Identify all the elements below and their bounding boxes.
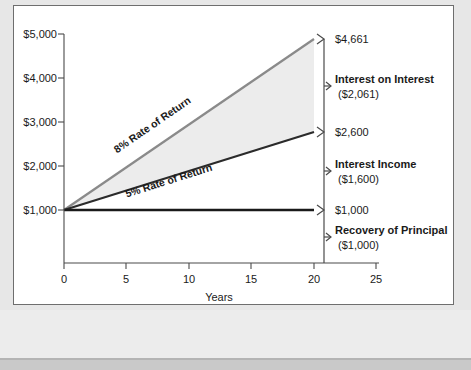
page-background-middle: [0, 310, 471, 360]
x-tick-label-25: 25: [361, 274, 391, 285]
chart-plot-area: [14, 6, 455, 306]
y-tick-label-5000: $5,000: [9, 29, 57, 40]
callout-value-2600: $2,600: [335, 127, 369, 138]
x-axis-title: Years: [189, 292, 249, 303]
x-tick-label-20: 20: [299, 274, 329, 285]
page-background-bottom-band: [0, 360, 471, 370]
callout-value-4661: $4,661: [335, 34, 369, 45]
callout-amount-interest-income: ($1,600): [338, 174, 379, 185]
y-tick-label-3000: $3,000: [9, 117, 57, 128]
callout-brace-group-ticks: [324, 86, 331, 237]
y-tick-label-4000: $4,000: [9, 73, 57, 84]
callout-title-interest-on-interest: Interest on Interest: [335, 74, 434, 85]
callout-amount-interest-on-interest: ($2,061): [338, 89, 379, 100]
callout-brace-group-arrowheads: [326, 82, 331, 241]
y-axis-ticks: [58, 34, 64, 210]
x-tick-label-0: 0: [49, 274, 79, 285]
callout-value-1000: $1,000: [335, 205, 369, 216]
figure-panel: $5,000 $4,000 $3,000 $2,000 $1,000 0 5 1…: [13, 5, 454, 305]
callout-brace-value-ticks: [317, 34, 324, 215]
x-tick-label-15: 15: [236, 274, 266, 285]
callout-amount-recovery-of-principal: ($1,000): [338, 240, 379, 251]
callout-title-interest-income: Interest Income: [335, 159, 416, 170]
y-tick-label-1000: $1,000: [9, 205, 57, 216]
x-tick-label-10: 10: [174, 274, 204, 285]
x-tick-label-5: 5: [111, 274, 141, 285]
callout-title-recovery-of-principal: Recovery of Principal: [335, 225, 448, 236]
screenshot-root: $5,000 $4,000 $3,000 $2,000 $1,000 0 5 1…: [0, 0, 471, 370]
y-tick-label-2000: $2,000: [9, 161, 57, 172]
x-axis-ticks: [64, 263, 376, 269]
